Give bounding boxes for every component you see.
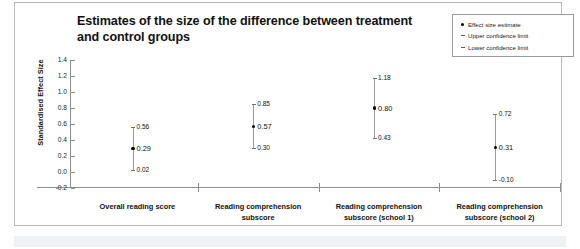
effect-size-marker (494, 146, 497, 149)
upper-confidence-cap (493, 114, 497, 115)
upper-confidence-cap (373, 78, 377, 79)
chart-card: Estimates of the size of the difference … (14, 2, 562, 226)
lower-confidence-cap (252, 148, 256, 149)
effect-size-value: 0.29 (137, 144, 151, 153)
bottom-band (14, 236, 566, 247)
upper-confidence-value: 0.85 (257, 100, 270, 107)
effect-size-value: 0.57 (257, 122, 271, 131)
effect-size-marker (373, 106, 376, 109)
lower-confidence-value: -0.10 (499, 176, 514, 183)
upper-confidence-value: 0.56 (137, 123, 150, 130)
effect-size-marker (131, 147, 134, 150)
plot-area: 0.560.290.020.850.570.301.180.800.430.72… (15, 3, 563, 227)
lower-confidence-cap (131, 170, 135, 171)
effect-size-value: 0.80 (378, 104, 392, 113)
lower-confidence-cap (373, 138, 377, 139)
upper-confidence-cap (252, 104, 256, 105)
upper-confidence-value: 0.72 (499, 110, 512, 117)
lower-confidence-cap (493, 180, 497, 181)
effect-size-marker (252, 125, 255, 128)
upper-confidence-value: 1.18 (378, 74, 391, 81)
lower-confidence-value: 0.43 (378, 134, 391, 141)
upper-confidence-cap (131, 127, 135, 128)
lower-confidence-value: 0.30 (257, 144, 270, 151)
effect-size-value: 0.31 (499, 143, 513, 152)
lower-confidence-value: 0.02 (137, 166, 150, 173)
chart-page: Estimates of the size of the difference … (0, 0, 580, 249)
